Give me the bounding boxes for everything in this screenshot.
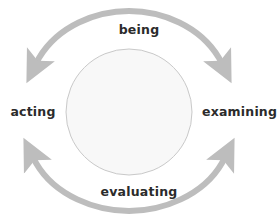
node-label-examining: examining bbox=[202, 106, 278, 119]
center-circle bbox=[66, 49, 192, 175]
node-label-acting: acting bbox=[4, 106, 62, 119]
node-label-being: being bbox=[0, 24, 278, 37]
cycle-diagram: being acting examining evaluating bbox=[0, 0, 278, 222]
node-label-evaluating: evaluating bbox=[0, 186, 278, 199]
